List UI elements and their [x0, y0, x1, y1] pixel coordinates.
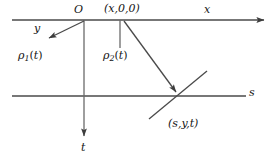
point-top-label: (x,0,0)	[104, 3, 140, 14]
rho1-argument: (t)	[30, 49, 43, 62]
origin-label: O	[74, 4, 83, 15]
y-axis-label: y	[34, 23, 40, 34]
y-axis-arrow	[49, 21, 84, 38]
rho2-argument: (t)	[115, 49, 128, 62]
geometry-diagram: x s t y O ρ1(t) ρ2(t) (x,0,0) (s,y,t)	[0, 0, 275, 160]
cross-segment-line	[149, 71, 207, 119]
t-axis-label: t	[81, 142, 85, 153]
s-axis-label: s	[249, 87, 255, 98]
ray-to-point-line	[124, 21, 176, 92]
x-axis-label: x	[204, 4, 210, 15]
diagram-canvas	[0, 0, 275, 160]
rho1-label: ρ1(t)	[18, 50, 43, 63]
rho2-label: ρ2(t)	[103, 50, 128, 63]
point-bottom-label: (s,y,t)	[168, 118, 198, 129]
